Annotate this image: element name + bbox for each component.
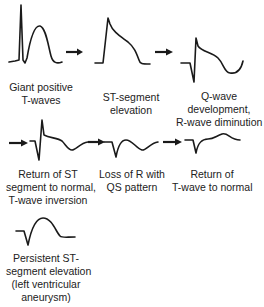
waveform-st-segment-elevation — [95, 18, 150, 64]
stage-label-q-wave-development: Q-wave development, R-wave diminution — [176, 90, 262, 129]
stage-label-persistent-st-elevation: Persistent ST- segment elevation (left v… — [6, 252, 86, 304]
label-line: Loss of R with — [96, 168, 168, 181]
waveform-return-st-normal — [30, 120, 88, 160]
label-line: Persistent ST- — [6, 252, 86, 265]
arrow-icon — [88, 139, 105, 146]
label-line: ST-segment — [96, 91, 166, 104]
label-line: T-waves — [6, 94, 76, 107]
label-line: elevation — [96, 104, 166, 117]
waveform-loss-of-r — [104, 140, 158, 157]
label-line: Return of ST — [6, 168, 90, 181]
label-line: T-wave to normal — [172, 181, 252, 194]
label-line: segment to normal, — [6, 181, 90, 194]
arrow-icon — [155, 49, 173, 56]
arrow-icon — [163, 139, 182, 146]
waveform-persistent-st-elevation — [16, 218, 75, 245]
label-line: T-wave inversion — [6, 194, 90, 207]
stage-label-return-st-normal: Return of ST segment to normal, T-wave i… — [6, 168, 90, 207]
stage-label-loss-of-r: Loss of R with QS pattern — [96, 168, 168, 194]
label-line: aneurysm) — [6, 291, 86, 304]
waveform-q-wave-development — [181, 38, 243, 82]
label-line: Q-wave — [176, 90, 262, 103]
stage-label-giant-positive-t-waves: Giant positive T-waves — [6, 81, 76, 107]
label-line: QS pattern — [96, 181, 168, 194]
label-line: Giant positive — [6, 81, 76, 94]
label-line: R-wave diminution — [176, 116, 262, 129]
label-line: Return of — [172, 168, 252, 181]
arrow-icon — [66, 49, 83, 56]
label-line: (left ventricular — [6, 278, 86, 291]
stage-label-return-t-normal: Return of T-wave to normal — [172, 168, 252, 194]
arrow-icon — [9, 140, 28, 147]
label-line: segment elevation — [6, 265, 86, 278]
label-line: development, — [176, 103, 262, 116]
stage-label-st-segment-elevation: ST-segment elevation — [96, 91, 166, 117]
waveform-return-t-normal — [185, 134, 240, 153]
waveform-giant-positive-t-waves — [9, 5, 62, 63]
